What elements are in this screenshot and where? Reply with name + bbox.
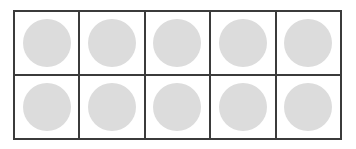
counter-circle-icon xyxy=(284,19,332,67)
ten-frame-grid xyxy=(13,10,342,140)
ten-frame-cell[interactable] xyxy=(146,12,211,76)
ten-frame-cell[interactable] xyxy=(80,12,145,76)
counter-circle-icon xyxy=(284,83,332,131)
ten-frame-figure xyxy=(0,0,356,149)
counter-circle-icon xyxy=(153,83,201,131)
ten-frame-cell[interactable] xyxy=(211,12,276,76)
ten-frame-cell[interactable] xyxy=(80,76,145,140)
ten-frame-cell[interactable] xyxy=(146,76,211,140)
counter-circle-icon xyxy=(153,19,201,67)
ten-frame-cell[interactable] xyxy=(277,76,342,140)
ten-frame-cell[interactable] xyxy=(211,76,276,140)
counter-circle-icon xyxy=(219,83,267,131)
counter-circle-icon xyxy=(219,19,267,67)
counter-circle-icon xyxy=(23,83,71,131)
counter-circle-icon xyxy=(23,19,71,67)
ten-frame-cell[interactable] xyxy=(15,76,80,140)
counter-circle-icon xyxy=(88,19,136,67)
counter-circle-icon xyxy=(88,83,136,131)
ten-frame-cell[interactable] xyxy=(15,12,80,76)
ten-frame-cell[interactable] xyxy=(277,12,342,76)
